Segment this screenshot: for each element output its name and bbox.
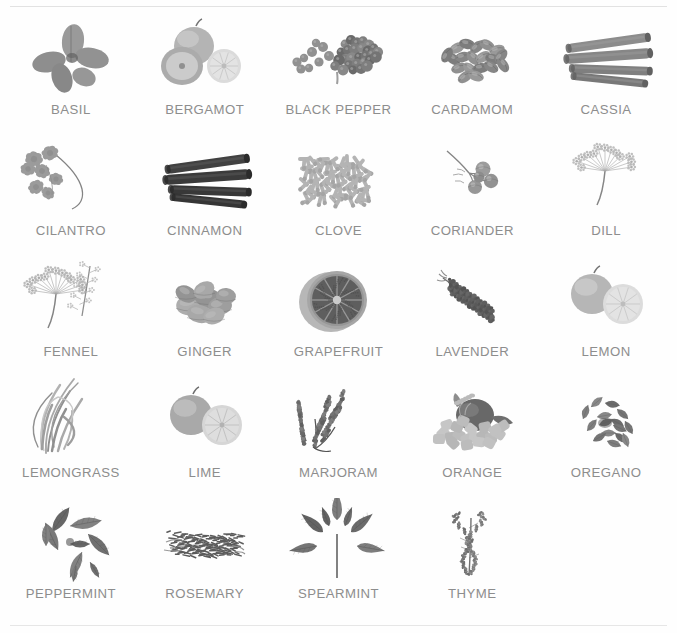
lavender-sprig-icon — [413, 256, 531, 344]
herb-cell-bergamot: BERGAMOT — [138, 14, 272, 134]
lime-citrus-icon — [146, 377, 264, 465]
herb-label: CILANTRO — [36, 224, 106, 237]
herb-cell-basil: BASIL — [4, 14, 138, 134]
oregano-leaves-icon — [547, 377, 665, 465]
herb-label: BERGAMOT — [165, 103, 244, 116]
thyme-sprig-icon — [413, 498, 531, 586]
herb-label: CLOVE — [315, 224, 362, 237]
basil-leaves-icon — [12, 14, 130, 102]
top-divider — [10, 6, 667, 7]
herb-label: CINNAMON — [167, 224, 242, 237]
herb-label: ROSEMARY — [165, 587, 244, 600]
clove-pile-icon — [279, 135, 397, 223]
grapefruit-half-icon — [279, 256, 397, 344]
bottom-divider — [10, 625, 667, 626]
herb-label: CARDAMOM — [431, 103, 513, 116]
herb-label: OREGANO — [571, 466, 642, 479]
cinnamon-sticks-icon — [146, 135, 264, 223]
herb-cell-peppermint: PEPPERMINT — [4, 498, 138, 618]
herb-label: LEMON — [582, 345, 631, 358]
herb-label: LEMONGRASS — [22, 466, 120, 479]
herb-chart-sheet: BASIL BERGAMOTBLACK PEPPER — [0, 0, 677, 633]
herb-cell-lemongrass: LEMONGRASS — [4, 377, 138, 497]
herb-cell-rosemary: ROSEMARY — [138, 498, 272, 618]
peppermint-leaves-icon — [12, 498, 130, 586]
herb-cell-clove: CLOVE — [272, 135, 406, 255]
herb-label: MARJORAM — [299, 466, 378, 479]
orange-arrangement-icon — [413, 377, 531, 465]
herb-cell-lavender: LAVENDER — [405, 256, 539, 376]
herb-cell-black-pepper: BLACK PEPPER — [272, 14, 406, 134]
herb-label: ORANGE — [442, 466, 502, 479]
herb-cell-marjoram: MARJORAM — [272, 377, 406, 497]
cilantro-sprig-icon — [12, 135, 130, 223]
spearmint-sprig-icon — [279, 498, 397, 586]
herb-cell-orange: ORANGE — [405, 377, 539, 497]
coriander-berries-icon — [413, 135, 531, 223]
fennel-umbel-icon — [12, 256, 130, 344]
herb-cell-cardamom: CARDAMOM — [405, 14, 539, 134]
herb-cell-fennel: FENNEL — [4, 256, 138, 376]
herb-cell-spearmint: SPEARMINT — [272, 498, 406, 618]
herb-label: THYME — [448, 587, 496, 600]
herb-label: GRAPEFRUIT — [294, 345, 384, 358]
herb-cell-cilantro: CILANTRO — [4, 135, 138, 255]
herb-cell-coriander: CORIANDER — [405, 135, 539, 255]
herb-label: BASIL — [51, 103, 91, 116]
herb-label: PEPPERMINT — [26, 587, 116, 600]
herb-grid: BASIL BERGAMOTBLACK PEPPER — [4, 14, 673, 618]
herb-label: FENNEL — [44, 345, 99, 358]
herb-cell-dill: DILL — [539, 135, 673, 255]
black-peppercorns-icon — [279, 14, 397, 102]
herb-cell-grapefruit: GRAPEFRUIT — [272, 256, 406, 376]
herb-label: CORIANDER — [431, 224, 514, 237]
herb-cell-cinnamon: CINNAMON — [138, 135, 272, 255]
cardamom-pods-icon — [413, 14, 531, 102]
lemon-citrus-icon — [547, 256, 665, 344]
herb-cell-thyme: THYME — [405, 498, 539, 618]
herb-label: SPEARMINT — [298, 587, 379, 600]
herb-label: LIME — [188, 466, 221, 479]
herb-label: CASSIA — [581, 103, 632, 116]
herb-cell-cassia: CASSIA — [539, 14, 673, 134]
rosemary-bundle-icon — [146, 498, 264, 586]
bergamot-citrus-icon — [146, 14, 264, 102]
herb-label: GINGER — [177, 345, 232, 358]
cassia-bark-icon — [547, 14, 665, 102]
ginger-root-icon — [146, 256, 264, 344]
herb-cell-lime: LIME — [138, 377, 272, 497]
dill-umbel-icon — [547, 135, 665, 223]
herb-cell-lemon: LEMON — [539, 256, 673, 376]
herb-label: BLACK PEPPER — [286, 103, 392, 116]
herb-label: DILL — [591, 224, 621, 237]
marjoram-sprig-icon — [279, 377, 397, 465]
herb-cell-ginger: GINGER — [138, 256, 272, 376]
herb-cell-oregano: OREGANO — [539, 377, 673, 497]
lemongrass-stalks-icon — [12, 377, 130, 465]
herb-label: LAVENDER — [435, 345, 509, 358]
